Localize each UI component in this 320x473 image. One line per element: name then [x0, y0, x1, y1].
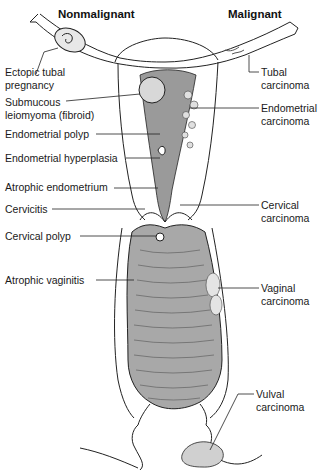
label-vaginal-carcinoma: Vaginal carcinoma — [261, 282, 309, 307]
label-endometrial-hyperplasia: Endometrial hyperplasia — [5, 152, 118, 165]
label-atrophic-endometrium: Atrophic endometrium — [5, 181, 108, 194]
label-atrophic-vaginitis: Atrophic vaginitis — [5, 274, 84, 287]
label-submucous-leiomyoma: Submucous leiomyoma (fibroid) — [5, 96, 94, 121]
vulva — [80, 404, 262, 470]
vaginal-canal — [127, 225, 222, 409]
header-nonmalignant: Nonmalignant — [58, 8, 135, 20]
label-vulval-carcinoma: Vulval carcinoma — [256, 388, 304, 413]
label-ectopic-tubal-pregnancy: Ectopic tubal pregnancy — [5, 66, 65, 91]
label-cervical-polyp: Cervical polyp — [5, 230, 71, 243]
label-endometrial-polyp: Endometrial polyp — [5, 128, 89, 141]
right-fallopian-tube — [165, 22, 298, 68]
label-tubal-carcinoma: Tubal carcinoma — [261, 66, 309, 91]
label-cervicitis: Cervicitis — [5, 203, 48, 216]
header-malignant: Malignant — [228, 8, 282, 20]
label-endometrial-carcinoma: Endometrial carcinoma — [261, 102, 317, 127]
cervical-polyp — [156, 233, 164, 241]
label-cervical-carcinoma: Cervical carcinoma — [261, 199, 309, 224]
uterus-fundus — [115, 38, 218, 62]
fibroid — [139, 77, 165, 103]
vulval-carcinoma — [182, 442, 224, 467]
